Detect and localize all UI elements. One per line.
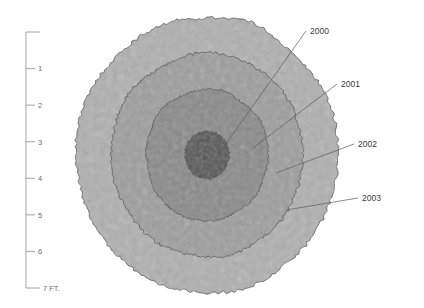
scale-tick-label-1: 1 — [38, 64, 42, 73]
scale-tick-label-2: 2 — [38, 101, 42, 110]
vertical-scale-bar: 1234567 FT. — [26, 32, 60, 293]
scale-tick-label-5: 5 — [38, 211, 42, 220]
scale-tick-label-6: 6 — [38, 247, 42, 256]
year-label-2000: 2000 — [310, 26, 329, 36]
growth-ring-diagram: 2000200120022003 1234567 FT. — [0, 0, 424, 308]
year-label-2001: 2001 — [341, 79, 360, 89]
year-label-2002: 2002 — [358, 139, 377, 149]
scale-tick-label-4: 4 — [38, 174, 42, 183]
scale-tick-label-3: 3 — [38, 138, 42, 147]
year-label-2003: 2003 — [362, 193, 381, 203]
scale-tick-label-7: 7 FT. — [43, 284, 60, 293]
